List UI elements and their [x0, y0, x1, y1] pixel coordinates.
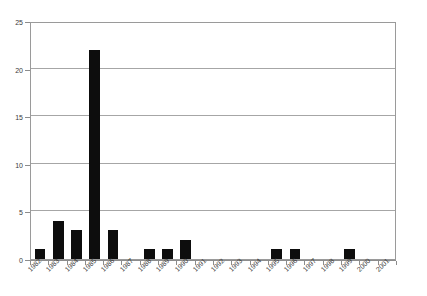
y-axis-tick-label: 25 — [1, 19, 23, 26]
bar-slot — [122, 23, 140, 259]
bar-slot — [286, 23, 304, 259]
bar-slot — [377, 23, 395, 259]
plot-area — [30, 22, 396, 260]
x-axis-label-cell: 1984 — [67, 266, 85, 296]
bar-slot — [231, 23, 249, 259]
bar-slot — [213, 23, 231, 259]
bar-slot — [158, 23, 176, 259]
bar-slot — [49, 23, 67, 259]
x-axis-label-cell: 2001 — [378, 266, 396, 296]
bar — [108, 230, 119, 259]
bar-slot — [67, 23, 85, 259]
x-axis-label-cell: 1989 — [158, 266, 176, 296]
bar-chart: 0510152025 19821983198419851986198719881… — [0, 0, 427, 296]
x-axis-label-cell: 1987 — [121, 266, 139, 296]
x-axis-label-cell: 1988 — [140, 266, 158, 296]
bar-slot — [359, 23, 377, 259]
x-axis-labels: 1982198319841985198619871988198919901991… — [30, 266, 396, 296]
y-axis-tick-label: 5 — [1, 209, 23, 216]
bar-slot — [340, 23, 358, 259]
x-axis-label-cell: 1986 — [103, 266, 121, 296]
bar-slot — [249, 23, 267, 259]
bar-slot — [86, 23, 104, 259]
bar-slot — [268, 23, 286, 259]
x-axis-label-cell: 1990 — [176, 266, 194, 296]
x-axis-label-cell: 1996 — [286, 266, 304, 296]
x-axis-label-cell: 1985 — [85, 266, 103, 296]
x-axis-end-tick — [396, 261, 397, 265]
x-axis-label-cell: 1999 — [341, 266, 359, 296]
x-axis-label-cell: 1992 — [213, 266, 231, 296]
bar-slot — [31, 23, 49, 259]
bar — [71, 230, 82, 259]
bar-slot — [304, 23, 322, 259]
y-axis-tick-label: 0 — [1, 257, 23, 264]
bar-slot — [140, 23, 158, 259]
y-axis-tick-label: 20 — [1, 67, 23, 74]
y-axis-tick-label: 15 — [1, 114, 23, 121]
x-axis-label-cell: 1991 — [195, 266, 213, 296]
bar — [89, 50, 100, 259]
x-axis-label-cell: 1993 — [231, 266, 249, 296]
bar-slot — [104, 23, 122, 259]
bar-slot — [322, 23, 340, 259]
bar — [180, 240, 191, 259]
bars-layer — [31, 23, 395, 259]
bar — [53, 221, 64, 259]
x-axis-label-cell: 1983 — [48, 266, 66, 296]
bar-slot — [177, 23, 195, 259]
y-axis-tick-label: 10 — [1, 162, 23, 169]
x-axis-label-cell: 1997 — [304, 266, 322, 296]
x-axis-label-cell: 1998 — [323, 266, 341, 296]
x-axis-label-cell: 1995 — [268, 266, 286, 296]
x-axis-label-cell: 1994 — [250, 266, 268, 296]
x-axis-label-cell: 2000 — [359, 266, 377, 296]
bar-slot — [195, 23, 213, 259]
x-axis-label-cell: 1982 — [30, 266, 48, 296]
